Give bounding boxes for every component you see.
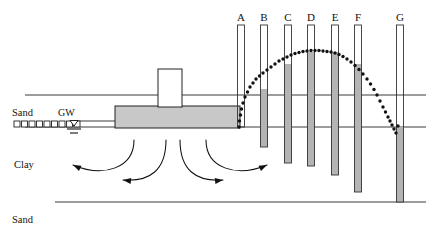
- pore-pressure-dot: [277, 59, 280, 62]
- standpipe-label-F: F: [348, 12, 368, 23]
- pore-pressure-dot: [384, 110, 387, 113]
- standpipe-water-column-F: [355, 64, 362, 192]
- diagram-canvas: ABCDEFGSandClaySandGW: [0, 0, 426, 241]
- pore-pressure-dot: [305, 49, 308, 52]
- pore-pressure-dot: [353, 64, 356, 67]
- standpipe-label-A: A: [231, 12, 251, 23]
- pore-pressure-dot: [392, 127, 395, 130]
- flow-arrow-left-inner-head: [123, 177, 132, 184]
- pore-pressure-dot: [301, 50, 304, 53]
- pore-pressure-dot: [313, 49, 316, 52]
- flow-arrow-left-outer-head: [72, 162, 82, 171]
- flow-arrow-right-outer: [206, 140, 267, 171]
- pore-pressure-dot: [237, 125, 240, 128]
- sand-lower-label: Sand: [12, 215, 33, 226]
- pore-pressure-dot: [243, 95, 246, 98]
- sand-hatch-square: [22, 121, 28, 127]
- pore-pressure-dot: [321, 49, 324, 52]
- pore-pressure-dot: [241, 101, 244, 104]
- flow-arrow-left-outer: [73, 140, 134, 171]
- groundwater-label: GW: [58, 108, 75, 118]
- pore-pressure-dot: [246, 90, 249, 93]
- pore-pressure-dot: [349, 60, 352, 63]
- standpipe-water-column-E: [332, 52, 339, 175]
- flow-arrow-right-outer-head: [258, 162, 268, 171]
- standpipe-label-E: E: [325, 12, 345, 23]
- pore-pressure-dot: [372, 88, 375, 91]
- pore-pressure-dot: [375, 93, 378, 96]
- pore-pressure-dot: [325, 50, 328, 53]
- pore-pressure-dot: [317, 49, 320, 52]
- pore-pressure-dot: [254, 77, 257, 80]
- pore-pressure-dot: [269, 65, 272, 68]
- pore-pressure-dot: [248, 85, 251, 88]
- pore-pressure-dot: [238, 119, 241, 122]
- pore-pressure-dot: [285, 55, 288, 58]
- pore-pressure-dot: [293, 52, 296, 55]
- pore-pressure-dot: [361, 72, 364, 75]
- flow-arrow-right-inner: [180, 140, 223, 180]
- standpipe-label-B: B: [254, 12, 274, 23]
- sand-hatch-square: [52, 121, 58, 127]
- pore-pressure-dot: [388, 119, 391, 122]
- pore-pressure-dot: [378, 99, 381, 102]
- standpipe-label-D: D: [301, 12, 321, 23]
- sand-hatch-row: [14, 121, 80, 127]
- flow-arrow-right-inner-head: [215, 177, 224, 184]
- pore-pressure-dot: [281, 57, 284, 60]
- pore-pressure-dot: [273, 62, 276, 65]
- standpipe-water-column-C: [285, 64, 292, 163]
- pore-pressure-dot: [357, 68, 360, 71]
- footing-slab: [115, 106, 240, 128]
- sand-hatch-square: [59, 121, 65, 127]
- pore-pressure-dot: [240, 107, 243, 110]
- pore-pressure-dot: [329, 50, 332, 53]
- pore-pressure-dot: [337, 53, 340, 56]
- pore-pressure-dot: [386, 115, 389, 118]
- pore-pressure-dot: [390, 123, 393, 126]
- pore-pressure-dot: [261, 71, 264, 74]
- pore-pressure-dot: [394, 131, 397, 134]
- pore-pressure-dot: [365, 77, 368, 80]
- pore-pressure-dot: [345, 57, 348, 60]
- standpipe-label-C: C: [278, 12, 298, 23]
- pore-pressure-dot: [396, 124, 399, 127]
- pore-pressure-dot: [289, 53, 292, 56]
- pore-pressure-dot: [297, 51, 300, 54]
- sand-hatch-square: [29, 121, 35, 127]
- pore-pressure-dot: [265, 68, 268, 71]
- sand-upper-label: Sand: [12, 108, 33, 119]
- pore-pressure-dot: [251, 81, 254, 84]
- pore-pressure-dot: [258, 74, 261, 77]
- pore-pressure-dot: [309, 49, 312, 52]
- pore-pressure-dot: [239, 113, 242, 116]
- standpipe-water-column-B: [261, 89, 268, 147]
- flow-arrow-left-inner: [123, 140, 166, 180]
- sand-hatch-square: [44, 121, 50, 127]
- pore-pressure-dot: [369, 82, 372, 85]
- standpipe-water-column-G: [397, 127, 404, 202]
- clay-label: Clay: [14, 160, 34, 171]
- sand-hatch-square: [37, 121, 43, 127]
- pore-pressure-dot: [333, 51, 336, 54]
- soil-profile-svg: [0, 0, 426, 241]
- pore-pressure-dot: [381, 105, 384, 108]
- pore-pressure-dot: [341, 55, 344, 58]
- standpipe-water-column-D: [308, 52, 315, 166]
- sand-hatch-square: [14, 121, 20, 127]
- foundation-column: [158, 69, 182, 107]
- standpipe-label-G: G: [390, 12, 410, 23]
